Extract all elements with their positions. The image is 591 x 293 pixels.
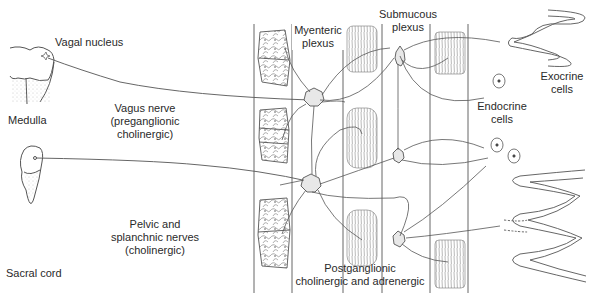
submucous-neuron-middle (393, 148, 404, 163)
gut-innervation-diagram: Vagal nucleus Medulla Vagus nerve (prega… (0, 0, 591, 293)
exocrine-gland-upper (508, 10, 585, 67)
label-medulla: Medulla (8, 114, 47, 127)
label-sacral-cord: Sacral cord (6, 267, 62, 280)
label-endocrine-cells: Endocrine cells (472, 100, 532, 126)
label-submucous-plexus: Submucous plexus (368, 8, 448, 34)
circular-muscle (347, 26, 465, 288)
myenteric-neuron-lower (301, 174, 321, 192)
vagal-nucleus-icon (41, 52, 50, 60)
medulla-drawing (10, 47, 54, 104)
label-myenteric-plexus: Myenteric plexus (292, 24, 344, 50)
sacral-cord-drawing (20, 146, 42, 205)
label-exocrine-cells: Exocrine cells (536, 70, 588, 96)
exocrine-gland-lower (504, 170, 586, 282)
myenteric-neuron-upper (304, 88, 324, 106)
pelvic-nerve-line (36, 158, 312, 182)
label-pelvic-nerves: Pelvic and splanchnic nerves (cholinergi… (100, 218, 210, 257)
label-vagal-nucleus: Vagal nucleus (55, 36, 123, 49)
nerve-fibres (280, 38, 500, 263)
label-vagus-nerve: Vagus nerve (preganglionic cholinergic) (100, 102, 190, 141)
label-postganglionic: Postganglionic cholinergic and adrenergi… (285, 262, 435, 288)
longitudinal-muscle (258, 30, 290, 268)
